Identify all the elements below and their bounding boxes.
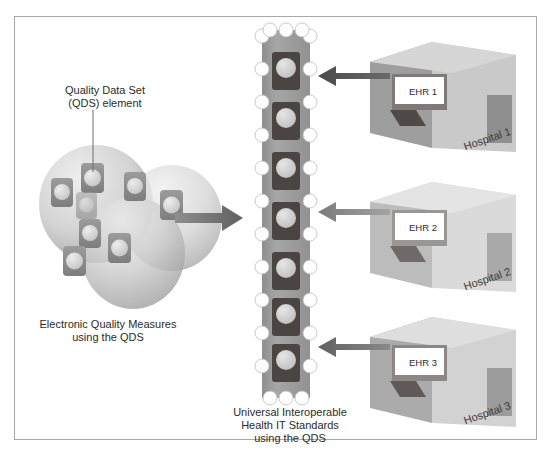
standards-slot	[272, 52, 300, 90]
qds-element-icon	[108, 233, 131, 263]
standards-slot	[272, 344, 300, 382]
qds-element-label: Quality Data Set (QDS) element	[30, 84, 180, 110]
universal-standards-column	[255, 23, 317, 405]
standards-slot	[272, 152, 300, 190]
standards-slot	[272, 202, 300, 240]
diagram-graphics	[0, 0, 550, 464]
ehr-1-screen-label: EHR 1	[399, 86, 447, 97]
electronic-quality-measures-label: Electronic Quality Measures using the QD…	[18, 318, 198, 344]
qds-element-icon	[79, 219, 101, 248]
ehr-3-screen-label: EHR 3	[399, 357, 447, 368]
qds-element-icon	[63, 246, 86, 276]
qds-element-icon	[51, 178, 73, 207]
universal-standards-label: Universal Interoperable Health IT Standa…	[200, 406, 380, 445]
standards-slot	[272, 102, 300, 140]
standards-slot	[272, 298, 300, 336]
qds-element-icon	[76, 192, 97, 219]
electronic-quality-measures-cluster	[39, 110, 222, 309]
diagram-canvas: Quality Data Set (QDS) element Electroni…	[0, 0, 550, 464]
standards-slot	[272, 252, 300, 290]
qds-element-icon	[124, 172, 146, 201]
ehr-2-screen-label: EHR 2	[399, 222, 447, 233]
